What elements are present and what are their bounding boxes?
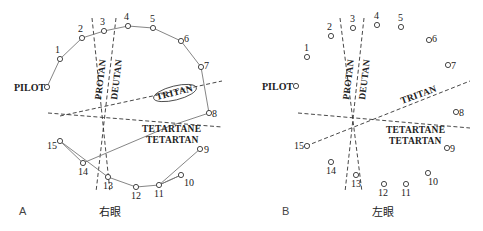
pilot-cap bbox=[44, 84, 49, 89]
cap-number-9: 9 bbox=[204, 144, 209, 155]
cap-15 bbox=[57, 138, 62, 143]
cap-number-2: 2 bbox=[78, 23, 83, 34]
cap-13 bbox=[105, 174, 110, 179]
cap-12 bbox=[381, 181, 386, 186]
panel-b-left-eye: PROTAN DEUTAN TRITAN TETARTANE TETARTAN … bbox=[262, 10, 470, 219]
deutan-label: DEUTAN bbox=[109, 59, 124, 101]
tetartan-label: TETARTAN bbox=[389, 136, 442, 146]
cap-2 bbox=[328, 33, 333, 38]
tetartan-label: TETARTAN bbox=[146, 135, 199, 145]
cap-number-14: 14 bbox=[78, 166, 88, 177]
cap-9 bbox=[444, 145, 449, 150]
tritan-axis bbox=[306, 81, 470, 146]
cap-number-15: 15 bbox=[294, 140, 304, 151]
protan-axis bbox=[92, 18, 110, 192]
cap-numbers: 1 2 3 4 5 6 7 8 9 10 11 12 13 14 15 bbox=[294, 10, 464, 198]
d15-color-test-diagram: PROTAN DEUTAN TRITAN TETARTANE TETARTAN … bbox=[0, 0, 483, 231]
cap-11 bbox=[156, 182, 161, 187]
cap-1 bbox=[304, 54, 309, 59]
pilot-label: PILOT bbox=[14, 82, 45, 93]
cap-5 bbox=[150, 25, 155, 30]
cap-number-11: 11 bbox=[401, 187, 411, 198]
cap-14 bbox=[328, 159, 333, 164]
arrangement-path bbox=[47, 26, 209, 187]
cap-11 bbox=[403, 181, 408, 186]
cap-15 bbox=[304, 143, 309, 148]
cap-number-12: 12 bbox=[131, 190, 141, 201]
cap-markers bbox=[57, 23, 211, 189]
cap-numbers: 1 2 3 4 5 6 7 8 9 10 11 12 13 14 15 bbox=[47, 11, 217, 201]
cap-number-7: 7 bbox=[204, 60, 209, 71]
cap-number-5: 5 bbox=[150, 13, 155, 24]
cap-9 bbox=[197, 146, 202, 151]
cap-5 bbox=[398, 24, 403, 29]
cap-number-11: 11 bbox=[154, 188, 164, 199]
cap-markers bbox=[304, 22, 458, 186]
cap-number-4: 4 bbox=[374, 10, 379, 21]
cap-number-14: 14 bbox=[326, 165, 336, 176]
tetartane-label: TETARTANE bbox=[142, 124, 201, 134]
deutan-axis bbox=[345, 18, 364, 192]
cap-10 bbox=[425, 170, 430, 175]
tritan-label: TRITAN bbox=[399, 84, 438, 106]
cap-6 bbox=[426, 37, 431, 42]
tetartane-label: TETARTANE bbox=[386, 125, 445, 135]
cap-7 bbox=[198, 64, 203, 69]
cap-7 bbox=[445, 62, 450, 67]
cap-4 bbox=[125, 23, 130, 28]
panel-label-a: A bbox=[19, 205, 27, 217]
cap-3 bbox=[350, 25, 355, 30]
cap-number-2: 2 bbox=[327, 21, 332, 32]
cap-2 bbox=[79, 35, 84, 40]
pilot-cap bbox=[293, 83, 298, 88]
pilot-label: PILOT bbox=[262, 81, 293, 92]
cap-number-15: 15 bbox=[47, 140, 57, 151]
tritan-axis bbox=[60, 81, 222, 116]
cap-number-3: 3 bbox=[100, 16, 105, 27]
cap-number-6: 6 bbox=[184, 33, 189, 44]
protan-label: PROTAN bbox=[93, 59, 108, 101]
cap-number-6: 6 bbox=[432, 33, 437, 44]
protan-axis bbox=[340, 18, 362, 192]
cap-number-3: 3 bbox=[350, 13, 355, 24]
cap-number-10: 10 bbox=[428, 176, 438, 187]
panel-a-right-eye: PROTAN DEUTAN TRITAN TETARTANE TETARTAN … bbox=[14, 11, 222, 219]
cap-8 bbox=[206, 110, 211, 115]
cap-number-1: 1 bbox=[304, 42, 309, 53]
cap-10 bbox=[178, 172, 183, 177]
cap-6 bbox=[178, 38, 183, 43]
cap-number-1: 1 bbox=[55, 44, 60, 55]
cap-13 bbox=[353, 172, 358, 177]
cap-1 bbox=[57, 56, 62, 61]
cap-number-13: 13 bbox=[351, 178, 361, 189]
cap-number-8: 8 bbox=[459, 107, 464, 118]
eye-label-left: 左眼 bbox=[372, 206, 394, 219]
cap-number-10: 10 bbox=[184, 177, 194, 188]
cap-number-4: 4 bbox=[124, 11, 129, 22]
cap-4 bbox=[374, 22, 379, 27]
eye-label-right: 右眼 bbox=[99, 205, 121, 219]
cap-12 bbox=[133, 184, 138, 189]
cap-14 bbox=[80, 160, 85, 165]
cap-3 bbox=[101, 28, 106, 33]
cap-number-8: 8 bbox=[212, 108, 217, 119]
cap-number-5: 5 bbox=[398, 12, 403, 23]
confusion-axes bbox=[48, 18, 222, 192]
protan-label: PROTAN bbox=[341, 59, 356, 101]
cap-number-13: 13 bbox=[103, 180, 113, 191]
panel-label-b: B bbox=[282, 205, 289, 217]
cap-8 bbox=[453, 109, 458, 114]
cap-number-9: 9 bbox=[450, 143, 455, 154]
cap-number-7: 7 bbox=[451, 60, 456, 71]
cap-number-12: 12 bbox=[378, 187, 388, 198]
confusion-axes bbox=[298, 18, 470, 192]
